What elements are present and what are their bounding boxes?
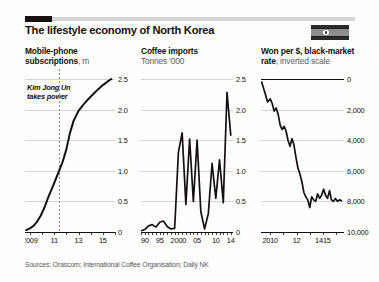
y-axis-tick-label: 8,000 bbox=[347, 197, 365, 206]
x-axis-tick-label: 12 bbox=[293, 236, 301, 245]
x-axis-tick-label: 1415 bbox=[315, 236, 331, 245]
y-axis-tick-label: 0.5 bbox=[118, 197, 128, 206]
y-axis-tick-label: 2.0 bbox=[236, 106, 246, 115]
plot-area-coffee: 00.51.01.52.02.51990952000051014 bbox=[141, 69, 257, 249]
flag-band-top bbox=[311, 25, 349, 28]
chart-panel-won-per-dollar: Won per $, black-market rate, inverted s… bbox=[261, 47, 374, 252]
x-axis-tick-label: 2009 bbox=[25, 236, 38, 245]
y-axis-tick-label: 0.5 bbox=[236, 197, 246, 206]
chart-panel-coffee-imports: Coffee imports Tonnes '000 00.51.01.52.0… bbox=[141, 47, 257, 252]
y-axis-tick-label: 6,000 bbox=[347, 167, 365, 176]
y-axis-tick-label: 1.0 bbox=[118, 167, 128, 176]
y-axis-tick-label: 2.5 bbox=[236, 75, 246, 84]
north-korea-flag-icon bbox=[311, 25, 349, 40]
chart-svg-coffee: 00.51.01.52.02.51990952000051014 bbox=[141, 69, 257, 249]
y-axis-tick-label: 2,000 bbox=[347, 106, 365, 115]
chart-title-mobile-line2: subscriptions bbox=[25, 56, 78, 66]
y-axis-tick-label: 10,000 bbox=[347, 228, 368, 237]
data-line-coffee-imports bbox=[141, 92, 231, 230]
chart-unit-won: , inverted scale bbox=[276, 56, 330, 66]
chart-title-won-line2: rate bbox=[261, 56, 276, 66]
header-tab bbox=[25, 16, 52, 22]
y-axis-tick-label: 1.5 bbox=[118, 136, 128, 145]
chart-svg-mobile: 00.51.01.52.02.52009111315 bbox=[25, 69, 137, 249]
chart-title-mobile-line1: Mobile-phone bbox=[25, 46, 78, 56]
plot-area-won: 02,0004,0006,0008,00010,0002010121415 bbox=[261, 69, 374, 249]
x-axis-tick-label: 1990 bbox=[141, 236, 149, 245]
x-axis-tick-label: 13 bbox=[75, 236, 83, 245]
x-axis-tick-label: 95 bbox=[156, 236, 164, 245]
data-line-won-per-dollar-black-market bbox=[262, 82, 342, 207]
y-axis-tick-label: 0 bbox=[118, 228, 122, 237]
x-axis-tick-label: 2010 bbox=[262, 236, 278, 245]
y-axis-tick-label: 0 bbox=[347, 75, 351, 84]
flag-star bbox=[325, 31, 327, 33]
x-axis-tick-label: 2000 bbox=[171, 236, 187, 245]
chart-unit-coffee: Tonnes '000 bbox=[141, 57, 184, 67]
chart-title-coffee-line1: Coffee imports bbox=[141, 46, 198, 56]
data-line-mobile-phone-subscriptions bbox=[26, 79, 111, 230]
x-axis-tick-label: 11 bbox=[51, 236, 58, 245]
plot-area-mobile: 00.51.01.52.02.52009111315 bbox=[25, 69, 137, 249]
y-axis-tick-label: 2.5 bbox=[118, 75, 128, 84]
x-axis-tick-label: 05 bbox=[193, 236, 201, 245]
y-axis-tick-label: 1.5 bbox=[236, 136, 246, 145]
x-axis-tick-label: 10 bbox=[212, 236, 220, 245]
y-axis-tick-label: 0 bbox=[236, 228, 240, 237]
sources-note: Sources: Orascom; International Coffee O… bbox=[25, 261, 209, 268]
x-axis-tick-label: 15 bbox=[99, 236, 107, 245]
x-axis-tick-label: 14 bbox=[227, 236, 235, 245]
chart-panel-mobile-phone-subscriptions: Mobile-phone subscriptions, m Kim Jong U… bbox=[25, 47, 137, 252]
chart-unit-mobile: , m bbox=[78, 56, 89, 66]
y-axis-tick-label: 2.0 bbox=[118, 106, 128, 115]
y-axis-tick-label: 4,000 bbox=[347, 136, 365, 145]
chart-svg-won: 02,0004,0006,0008,00010,0002010121415 bbox=[261, 69, 374, 249]
flag-band-middle bbox=[311, 29, 349, 35]
chart-title-mobile: Mobile-phone subscriptions, m bbox=[25, 47, 89, 66]
flag-band-bottom bbox=[311, 37, 349, 40]
infographic-sheet: The lifestyle economy of North Korea Mob… bbox=[0, 0, 379, 282]
chart-title-won-line1: Won per $, black-market bbox=[261, 46, 354, 56]
y-axis-tick-label: 1.0 bbox=[236, 167, 246, 176]
page-title: The lifestyle economy of North Korea bbox=[25, 24, 275, 37]
header-rule bbox=[25, 17, 355, 21]
chart-title-won: Won per $, black-market rate, inverted s… bbox=[261, 47, 354, 66]
